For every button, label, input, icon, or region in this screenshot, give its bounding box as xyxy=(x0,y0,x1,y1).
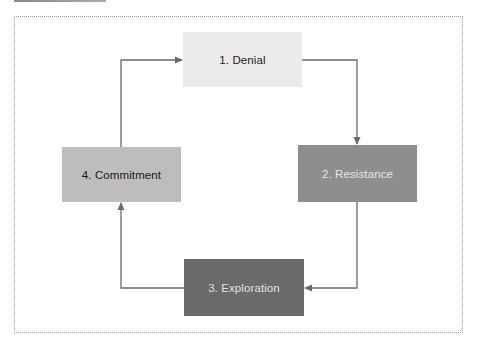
connector-resistance-exploration xyxy=(305,203,357,288)
stage-commitment-label: 4. Commitment xyxy=(82,169,161,181)
stage-exploration-box: 3. Exploration xyxy=(184,259,304,316)
connector-commitment-denial xyxy=(121,60,182,146)
stage-resistance-label: 2. Resistance xyxy=(322,168,393,180)
stage-denial-label: 1. Denial xyxy=(219,54,265,66)
stage-denial-box: 1. Denial xyxy=(183,32,302,87)
stage-resistance-box: 2. Resistance xyxy=(298,145,417,202)
stage-commitment-box: 4. Commitment xyxy=(62,147,181,202)
connector-denial-resistance xyxy=(303,60,357,144)
connector-exploration-commitment xyxy=(121,203,183,288)
stage-exploration-label: 3. Exploration xyxy=(208,282,280,294)
